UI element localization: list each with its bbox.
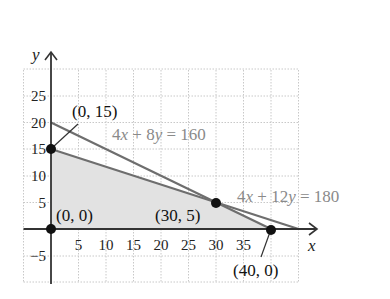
svg-text:30: 30 bbox=[209, 237, 224, 253]
point-label-40-0: (40, 0) bbox=[233, 261, 278, 280]
point-label-30-5: (30, 5) bbox=[155, 206, 200, 225]
vertex-point-0-15 bbox=[46, 144, 56, 154]
svg-text:−5: −5 bbox=[30, 248, 46, 264]
svg-text:10: 10 bbox=[99, 237, 114, 253]
y-tick-labels: 25 20 15 10 5 −5 bbox=[30, 88, 46, 264]
point-label-0-15: (0, 15) bbox=[72, 102, 117, 121]
leader-line-40-0 bbox=[261, 232, 270, 257]
point-label-0-0: (0, 0) bbox=[56, 206, 93, 225]
vertex-point-0-0 bbox=[46, 224, 56, 234]
x-tick-labels: 5 10 15 20 25 30 35 bbox=[75, 237, 251, 253]
svg-text:25: 25 bbox=[181, 237, 196, 253]
svg-text:35: 35 bbox=[236, 237, 251, 253]
svg-text:5: 5 bbox=[39, 195, 47, 211]
svg-text:15: 15 bbox=[126, 237, 141, 253]
svg-text:10: 10 bbox=[31, 168, 46, 184]
x-axis-label: x bbox=[307, 236, 316, 255]
equation-label-4x-12y-180: 4x + 12y = 180 bbox=[237, 187, 339, 206]
svg-text:5: 5 bbox=[75, 237, 83, 253]
svg-text:20: 20 bbox=[154, 237, 169, 253]
linear-programming-graph: y x 25 20 15 10 5 −5 5 10 15 20 25 30 35… bbox=[0, 0, 390, 299]
y-axis-label: y bbox=[30, 45, 40, 64]
leader-line-0-15 bbox=[53, 124, 78, 147]
vertex-point-40-0 bbox=[266, 225, 276, 235]
equation-label-4x-8y-160: 4x + 8y = 160 bbox=[112, 125, 206, 144]
vertex-point-30-5 bbox=[211, 198, 221, 208]
svg-text:15: 15 bbox=[31, 141, 46, 157]
svg-text:25: 25 bbox=[31, 88, 46, 104]
svg-text:20: 20 bbox=[31, 115, 46, 131]
